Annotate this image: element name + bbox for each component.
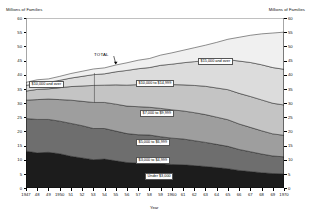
- chart-container: Millions of Families Millions of Familie…: [0, 0, 311, 219]
- right-axis-title: Millions of Families: [269, 7, 305, 12]
- x-tick-label: 1970: [277, 192, 291, 197]
- x-tick-mark: [82, 188, 83, 191]
- y-tick-label-left: 30: [6, 101, 22, 106]
- y-tick-label-left: 20: [6, 129, 22, 134]
- total-arrowhead: [114, 62, 118, 65]
- y-tick-label-right: 0: [288, 186, 290, 191]
- x-tick-mark: [262, 188, 263, 191]
- y-tick-label-left: 15: [6, 143, 22, 148]
- x-tick-mark: [26, 188, 27, 191]
- y-tick-mark: [284, 146, 287, 147]
- y-tick-label-left: 55: [6, 30, 22, 35]
- y-tick-label-left: 50: [6, 44, 22, 49]
- x-tick-mark: [183, 188, 184, 191]
- x-tick-mark: [172, 188, 173, 191]
- x-tick-mark: [228, 188, 229, 191]
- y-tick-mark: [284, 131, 287, 132]
- y-tick-label-left: 5: [6, 172, 22, 177]
- y-tick-mark: [24, 131, 27, 132]
- y-tick-mark: [24, 117, 27, 118]
- y-tick-mark: [24, 61, 27, 62]
- y-tick-label-right: 15: [288, 143, 293, 148]
- y-tick-label-right: 60: [288, 16, 293, 21]
- y-tick-label-right: 40: [288, 72, 293, 77]
- x-tick-mark: [239, 188, 240, 191]
- y-tick-mark: [284, 75, 287, 76]
- x-tick-mark: [250, 188, 251, 191]
- band-label: $5,000 to $6,999: [136, 139, 170, 146]
- y-tick-mark: [24, 146, 27, 147]
- x-tick-mark: [48, 188, 49, 191]
- y-tick-label-right: 50: [288, 44, 293, 49]
- band-label: $15,000 and over: [198, 58, 233, 65]
- band-label: Under $3,000: [145, 173, 173, 180]
- y-tick-mark: [24, 89, 27, 90]
- x-tick-mark: [284, 188, 285, 191]
- y-tick-mark: [24, 103, 27, 104]
- x-tick-mark: [37, 188, 38, 191]
- y-tick-label-left: 0: [6, 186, 22, 191]
- y-tick-label-right: 5: [288, 172, 290, 177]
- x-tick-mark: [205, 188, 206, 191]
- band-label: $3,000 to $4,999: [136, 157, 170, 164]
- y-tick-label-right: 10: [288, 157, 293, 162]
- x-tick-mark: [194, 188, 195, 191]
- y-tick-mark: [284, 46, 287, 47]
- x-tick-mark: [161, 188, 162, 191]
- x-tick-mark: [217, 188, 218, 191]
- y-tick-label-right: 20: [288, 129, 293, 134]
- y-tick-label-left: 25: [6, 115, 22, 120]
- x-tick-mark: [273, 188, 274, 191]
- total-annotation: TOTAL: [94, 52, 109, 57]
- band-label-left-callout: $10,000 and over: [29, 81, 64, 88]
- y-tick-mark: [284, 117, 287, 118]
- y-tick-label-left: 35: [6, 87, 22, 92]
- y-tick-mark: [24, 174, 27, 175]
- y-tick-label-right: 30: [288, 101, 293, 106]
- x-tick-mark: [71, 188, 72, 191]
- y-tick-label-left: 10: [6, 157, 22, 162]
- y-tick-mark: [24, 32, 27, 33]
- y-tick-label-left: 40: [6, 72, 22, 77]
- y-tick-mark: [284, 160, 287, 161]
- y-tick-mark: [24, 18, 27, 19]
- y-tick-label-right: 45: [288, 58, 293, 63]
- x-tick-mark: [149, 188, 150, 191]
- y-tick-mark: [284, 32, 287, 33]
- x-tick-mark: [116, 188, 117, 191]
- y-tick-mark: [284, 18, 287, 19]
- y-tick-label-right: 35: [288, 87, 293, 92]
- y-tick-label-left: 60: [6, 16, 22, 21]
- y-tick-mark: [24, 160, 27, 161]
- y-tick-label-right: 25: [288, 115, 293, 120]
- band-label: $10,000 to $14,999: [136, 80, 174, 87]
- y-tick-mark: [284, 174, 287, 175]
- y-tick-label-right: 55: [288, 30, 293, 35]
- x-tick-mark: [105, 188, 106, 191]
- y-tick-mark: [284, 103, 287, 104]
- y-tick-mark: [24, 46, 27, 47]
- x-tick-mark: [60, 188, 61, 191]
- band-label: $7,000 to $9,999: [140, 110, 174, 117]
- left-axis-title: Millions of Families: [6, 7, 42, 12]
- y-tick-mark: [284, 61, 287, 62]
- x-axis-title: Year: [150, 205, 158, 210]
- y-tick-mark: [284, 89, 287, 90]
- x-tick-mark: [127, 188, 128, 191]
- y-tick-mark: [24, 75, 27, 76]
- x-tick-mark: [93, 188, 94, 191]
- y-tick-label-left: 45: [6, 58, 22, 63]
- x-tick-mark: [138, 188, 139, 191]
